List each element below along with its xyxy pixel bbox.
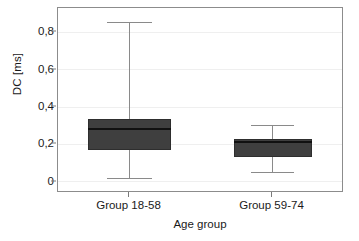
y-tick-mark — [51, 68, 56, 69]
x-tick-label-group-1: Group 18-58 — [69, 199, 189, 211]
y-tick-mark — [51, 143, 56, 144]
whisker-lower — [129, 150, 130, 178]
boxplot-figure: DC [ms] 0,8 0,6 0,4 0,2 0 Group 18-58 Gr… — [0, 0, 359, 241]
whisker-cap-upper — [251, 125, 293, 126]
y-tick-label: 0,4 — [20, 100, 54, 112]
whisker-cap-upper — [107, 22, 152, 23]
plot-area — [57, 7, 343, 192]
y-tick-mark — [51, 31, 56, 32]
y-tick-label: 0,2 — [20, 137, 54, 149]
whisker-upper — [272, 126, 273, 139]
median-2 — [234, 141, 312, 143]
median-1 — [88, 128, 171, 130]
y-axis-tick-labels: 0,8 0,6 0,4 0,2 0 — [16, 0, 54, 241]
x-tick-mark — [128, 192, 129, 197]
gridline — [58, 32, 342, 33]
gridline — [58, 69, 342, 70]
whisker-lower — [272, 157, 273, 172]
whisker-upper — [129, 23, 130, 119]
box-1 — [88, 119, 171, 150]
x-tick-mark — [271, 192, 272, 197]
y-tick-mark — [51, 180, 56, 181]
whisker-cap-lower — [251, 172, 293, 173]
whisker-cap-lower — [107, 178, 152, 179]
y-tick-mark — [51, 106, 56, 107]
x-axis-title: Age group — [57, 218, 343, 230]
x-tick-label-group-2: Group 59-74 — [212, 199, 332, 211]
gridline — [58, 181, 342, 182]
gridline — [58, 107, 342, 108]
y-tick-label: 0,6 — [20, 63, 54, 75]
y-tick-label: 0,8 — [20, 25, 54, 37]
y-tick-label: 0 — [20, 175, 54, 187]
